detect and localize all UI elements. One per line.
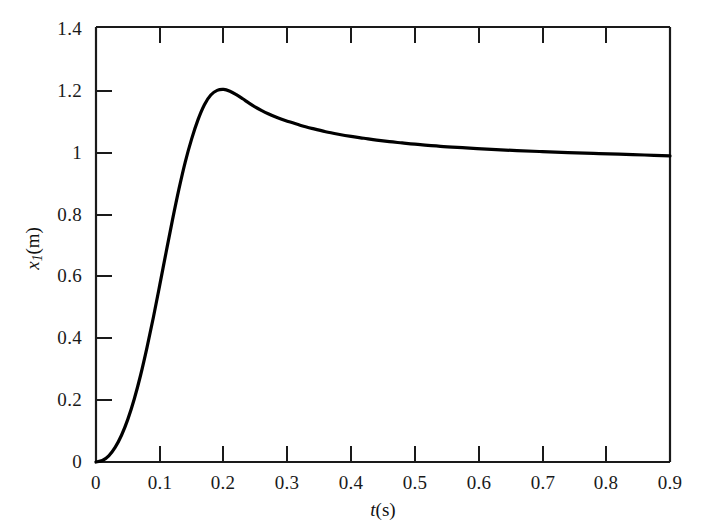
axes-frame <box>96 27 670 462</box>
data-series-x1 <box>96 89 670 462</box>
x-tick-label-0.7: 0.7 <box>531 472 556 494</box>
y-tick-marks <box>96 91 112 400</box>
x-tick-label-0.9: 0.9 <box>658 472 683 494</box>
y-tick-label-1.4: 1.4 <box>26 18 82 40</box>
x-tick-marks <box>160 27 606 462</box>
y-axis-title: x1(m) <box>22 208 47 288</box>
x-tick-label-0.2: 0.2 <box>211 472 236 494</box>
x-tick-label-0.4: 0.4 <box>339 472 364 494</box>
y-tick-label-1: 1 <box>26 142 82 164</box>
y-tick-label-1.2: 1.2 <box>26 80 82 102</box>
x-tick-label-0.3: 0.3 <box>275 472 300 494</box>
figure-container: 0 0.2 0.4 0.6 0.8 1 1.2 1.4 0 0.1 0.2 0.… <box>0 0 704 523</box>
y-axis-title-subscript: 1 <box>30 254 45 261</box>
x-tick-label-0.8: 0.8 <box>594 472 619 494</box>
x-tick-label-0.6: 0.6 <box>467 472 492 494</box>
y-axis-title-unit: (m) <box>22 227 43 254</box>
y-tick-label-0.4: 0.4 <box>26 327 82 349</box>
x-tick-label-0.5: 0.5 <box>403 472 428 494</box>
y-tick-label-0.2: 0.2 <box>26 389 82 411</box>
x-axis-title-unit: (s) <box>376 499 396 520</box>
y-tick-label-0: 0 <box>26 451 82 473</box>
x-axis-title: t(s) <box>370 499 395 521</box>
chart-plot-area <box>0 0 704 523</box>
x-tick-label-0: 0 <box>91 472 101 494</box>
x-tick-label-0.1: 0.1 <box>148 472 173 494</box>
y-axis-title-variable: x <box>22 261 43 269</box>
